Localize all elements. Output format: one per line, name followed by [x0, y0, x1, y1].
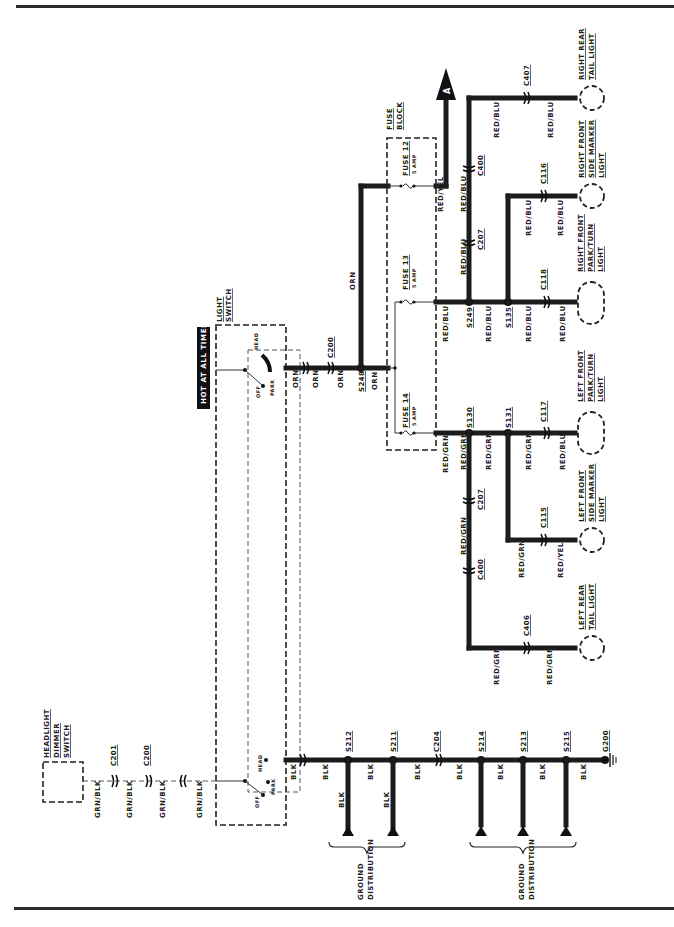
svg-text:RED/BLU: RED/BLU	[493, 101, 501, 138]
svg-text:5 AMP: 5 AMP	[411, 154, 417, 174]
svg-text:DIMMER: DIMMER	[53, 723, 61, 758]
svg-text:C207: C207	[477, 229, 485, 250]
svg-text:FUSE 12: FUSE 12	[402, 141, 410, 176]
svg-text:SWITCH: SWITCH	[225, 288, 233, 322]
svg-text:C200: C200	[327, 337, 335, 358]
svg-text:RED/GRN: RED/GRN	[460, 517, 468, 555]
ground-arrow-s215	[560, 826, 572, 836]
svg-text:BLK: BLK	[383, 791, 391, 808]
svg-text:S249: S249	[466, 307, 474, 328]
light-switch-housing	[216, 325, 286, 825]
label-right-rear-tail: RIGHT REAR TAIL LIGHT	[578, 28, 596, 80]
svg-text:HEADLIGHT: HEADLIGHT	[43, 709, 51, 758]
svg-text:C400: C400	[477, 155, 485, 176]
svg-text:RED/GRN: RED/GRN	[493, 647, 501, 685]
svg-text:SIDE MARKER: SIDE MARKER	[588, 463, 596, 522]
svg-text:RED/BLU: RED/BLU	[485, 305, 493, 342]
svg-text:C204: C204	[433, 731, 441, 752]
svg-text:BLK: BLK	[290, 763, 298, 780]
svg-text:LEFT REAR: LEFT REAR	[578, 584, 586, 630]
svg-text:RED/GRN: RED/GRN	[546, 647, 554, 685]
svg-text:GRN/BLK: GRN/BLK	[196, 780, 204, 818]
svg-text:C406: C406	[523, 615, 531, 636]
svg-text:TAIL LIGHT: TAIL LIGHT	[588, 583, 596, 630]
svg-text:RED/BLU: RED/BLU	[559, 433, 567, 470]
svg-text:BLK: BLK	[497, 763, 505, 780]
ground-arrow-s214	[475, 826, 487, 836]
bulb-right-front-side-marker	[580, 184, 604, 208]
svg-text:RED/BLU: RED/BLU	[547, 101, 555, 138]
bulb-right-rear-tail	[580, 86, 604, 110]
svg-text:BLK: BLK	[414, 763, 422, 780]
wiring-diagram: HOT AT ALL TIMES LIGHT SWITCH OFF PARK H…	[0, 0, 674, 927]
svg-text:PARK/TURN: PARK/TURN	[587, 223, 595, 272]
svg-text:C400: C400	[477, 559, 485, 580]
svg-text:FUSE: FUSE	[386, 108, 394, 130]
wire-label-orn: ORN	[312, 370, 320, 388]
svg-text:BLOCK: BLOCK	[396, 102, 404, 130]
svg-text:LIGHT: LIGHT	[597, 377, 605, 402]
svg-text:C407: C407	[523, 65, 531, 86]
svg-text:S215: S215	[563, 731, 571, 752]
label-right-front-side-marker: RIGHT FRONT SIDE MARKER LIGHT	[578, 119, 606, 178]
svg-text:RED/BLU: RED/BLU	[525, 199, 533, 236]
svg-text:PARK/TURN: PARK/TURN	[587, 353, 595, 402]
svg-text:C207: C207	[477, 489, 485, 510]
svg-text:BLK: BLK	[580, 763, 588, 780]
svg-text:DISTRIBUTION: DISTRIBUTION	[367, 839, 375, 900]
svg-text:RED/GRN: RED/GRN	[525, 432, 533, 470]
svg-text:HOT AT ALL TIMES: HOT AT ALL TIMES	[200, 322, 208, 404]
svg-text:BLK: BLK	[338, 791, 346, 808]
svg-text:ORN: ORN	[371, 372, 379, 390]
label-left-front-side-marker: LEFT FRONT SIDE MARKER LIGHT	[578, 463, 606, 522]
svg-text:FUSE 14: FUSE 14	[402, 393, 410, 428]
label-right-front-park-turn: RIGHT FRONT PARK/TURN LIGHT	[577, 214, 605, 272]
svg-text:RED/GRN: RED/GRN	[442, 435, 450, 473]
fuse-block	[387, 138, 436, 450]
svg-text:RED/YEL: RED/YEL	[437, 176, 445, 212]
svg-text:S135: S135	[505, 307, 513, 328]
bulb-left-front-side-marker	[580, 528, 604, 552]
ground-distribution-brace-left: GROUND DISTRIBUTION	[329, 839, 405, 900]
headlight-dimmer-switch	[43, 762, 83, 802]
svg-text:S248: S248	[358, 371, 366, 392]
svg-text:RED/BLU: RED/BLU	[460, 238, 468, 275]
svg-text:G200: G200	[602, 730, 610, 752]
bulb-left-front-park-turn	[578, 412, 604, 454]
svg-text:S212: S212	[345, 731, 353, 752]
svg-text:LEFT FRONT: LEFT FRONT	[577, 350, 585, 402]
svg-text:C117: C117	[540, 401, 548, 422]
svg-text:OFF: OFF	[254, 796, 260, 808]
label-left-front-park-turn: LEFT FRONT PARK/TURN LIGHT	[577, 350, 605, 402]
svg-text:RED/BLU: RED/BLU	[525, 305, 533, 342]
svg-text:SIDE MARKER: SIDE MARKER	[588, 119, 596, 178]
svg-text:S214: S214	[478, 731, 486, 752]
svg-text:C116: C116	[540, 163, 548, 184]
svg-text:LIGHT: LIGHT	[597, 247, 605, 272]
svg-text:S213: S213	[520, 731, 528, 752]
svg-text:LEFT FRONT: LEFT FRONT	[578, 470, 586, 522]
svg-text:LIGHT: LIGHT	[216, 297, 224, 322]
svg-text:OFF: OFF	[255, 386, 261, 398]
ground-arrow-s212	[342, 826, 354, 836]
svg-text:RED/GRN: RED/GRN	[518, 540, 526, 578]
svg-text:LIGHT: LIGHT	[598, 497, 606, 522]
svg-text:RIGHT FRONT: RIGHT FRONT	[578, 120, 586, 178]
light-switch-upper-contacts: OFF PARK HEAD	[216, 333, 275, 398]
svg-text:BLK: BLK	[539, 763, 547, 780]
hot-at-all-times-badge: HOT AT ALL TIMES	[197, 322, 210, 409]
svg-text:RED/BLU: RED/BLU	[559, 305, 567, 342]
offpage-reference-a: A	[436, 68, 456, 100]
svg-text:HEAD: HEAD	[257, 755, 263, 772]
svg-text:A: A	[443, 87, 452, 94]
svg-text:S130: S130	[466, 407, 474, 428]
svg-text:BLK: BLK	[322, 763, 330, 780]
svg-text:ORN: ORN	[349, 272, 357, 290]
svg-text:GRN/BLK: GRN/BLK	[126, 780, 134, 818]
wire-label-orn: ORN	[292, 370, 300, 388]
ground-distribution-brace-right: GROUND DISTRIBUTION	[470, 839, 576, 900]
light-switch-label: LIGHT SWITCH	[216, 288, 233, 322]
svg-text:BLK: BLK	[367, 763, 375, 780]
svg-text:5 AMP: 5 AMP	[411, 406, 417, 426]
svg-text:PARK: PARK	[270, 778, 276, 795]
